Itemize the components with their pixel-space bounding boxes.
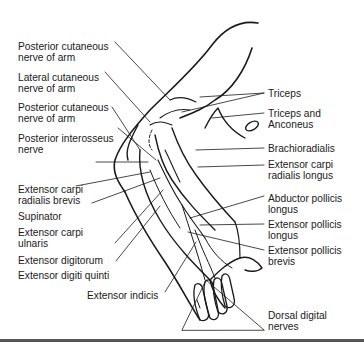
label-line: Triceps and — [268, 108, 321, 119]
label-line: Extensor pollicis — [268, 219, 342, 230]
label-dorsal-digital-nerves: Dorsal digital nerves — [268, 310, 327, 332]
label-extensor-carpi-radialis-longus: Extensor carpi radialis longus — [268, 159, 333, 181]
label-extensor-carpi-radialis-brevis: Extensor carpi radialis brevis — [18, 184, 83, 206]
label-lateral-cutaneous-nerve-arm: Lateral cutaneous nerve of arm — [18, 72, 99, 94]
label-extensor-pollicis-longus: Extensor pollicis longus — [268, 219, 342, 241]
label-line: Extensor indicis — [87, 290, 158, 301]
label-line: radialis brevis — [18, 195, 83, 206]
label-line: Extensor digiti quinti — [18, 270, 109, 281]
label-extensor-carpi-ulnaris: Extensor carpi ulnaris — [18, 227, 83, 249]
label-line: Anconeus — [268, 119, 321, 130]
label-line: nerves — [268, 321, 327, 332]
label-line: nerve — [18, 144, 114, 155]
label-triceps: Triceps — [268, 88, 301, 99]
label-supinator: Supinator — [18, 211, 62, 222]
label-line: radialis longus — [268, 170, 333, 181]
label-line: nerve of arm — [18, 113, 109, 124]
label-line: Supinator — [18, 211, 62, 222]
arm-nerve-diagram: Posterior cutaneous nerve of arm Lateral… — [0, 0, 364, 346]
label-line: Extensor pollicis — [268, 245, 342, 256]
label-line: ulnaris — [18, 238, 83, 249]
label-line: Lateral cutaneous — [18, 72, 99, 83]
label-line: Posterior cutaneous — [18, 41, 109, 52]
label-extensor-pollicis-brevis: Extensor pollicis brevis — [268, 245, 342, 267]
label-line: Abductor pollicis — [268, 193, 342, 204]
label-extensor-digitorum: Extensor digitorum — [18, 255, 103, 266]
label-posterior-cutaneous-nerve-arm-1: Posterior cutaneous nerve of arm — [18, 41, 109, 63]
label-posterior-cutaneous-nerve-arm-2: Posterior cutaneous nerve of arm — [18, 102, 109, 124]
label-line: Extensor carpi — [18, 227, 83, 238]
label-line: longus — [268, 204, 342, 215]
label-extensor-digiti-quinti: Extensor digiti quinti — [18, 270, 109, 281]
label-line: Extensor digitorum — [18, 255, 103, 266]
bottom-divider — [0, 339, 364, 342]
label-posterior-interosseus-nerve: Posterior interosseus nerve — [18, 133, 114, 155]
label-line: Posterior interosseus — [18, 133, 114, 144]
label-line: Dorsal digital — [268, 310, 327, 321]
label-line: Brachioradialis — [268, 143, 335, 154]
label-abductor-pollicis-longus: Abductor pollicis longus — [268, 193, 342, 215]
label-extensor-indicis: Extensor indicis — [87, 290, 158, 301]
label-line: Extensor carpi — [268, 159, 333, 170]
label-line: brevis — [268, 256, 342, 267]
label-line: Triceps — [268, 88, 301, 99]
label-line: Extensor carpi — [18, 184, 83, 195]
label-line: longus — [268, 230, 342, 241]
label-brachioradialis: Brachioradialis — [268, 143, 335, 154]
label-triceps-and-anconeus: Triceps and Anconeus — [268, 108, 321, 130]
label-line: nerve of arm — [18, 52, 109, 63]
label-line: Posterior cutaneous — [18, 102, 109, 113]
label-line: nerve of arm — [18, 83, 99, 94]
